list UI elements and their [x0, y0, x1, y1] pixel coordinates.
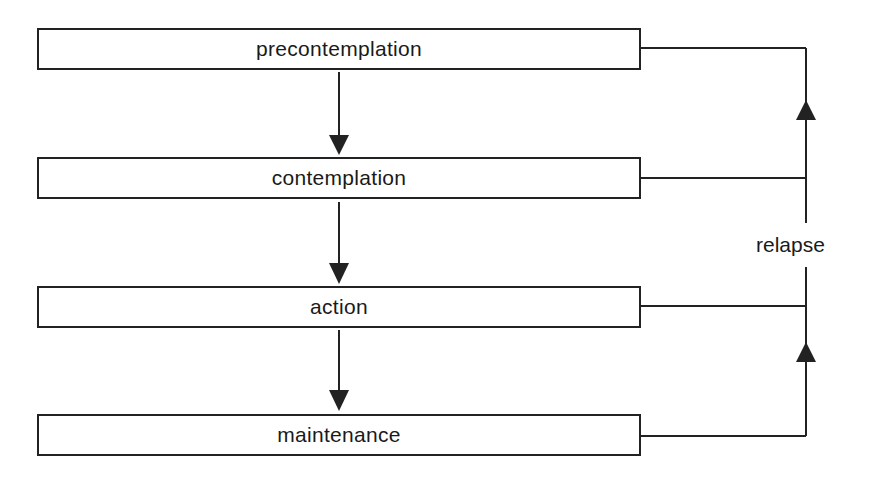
- stage-contemplation: contemplation: [37, 157, 641, 199]
- connector-lines: [0, 0, 876, 482]
- arrowhead-up-icon: [796, 342, 816, 362]
- stages-of-change-diagram: precontemplation contemplation action ma…: [0, 0, 876, 482]
- stage-label: action: [310, 295, 368, 319]
- relapse-label: relapse: [756, 233, 825, 257]
- stage-precontemplation: precontemplation: [37, 28, 641, 70]
- stage-label: precontemplation: [256, 37, 422, 61]
- stage-label: contemplation: [272, 166, 407, 190]
- stage-maintenance: maintenance: [37, 414, 641, 456]
- arrowhead-down-icon: [329, 263, 349, 284]
- stage-label: maintenance: [277, 423, 401, 447]
- arrowhead-up-icon: [796, 100, 816, 120]
- stage-action: action: [37, 286, 641, 328]
- arrowhead-down-icon: [329, 390, 349, 411]
- arrowhead-down-icon: [329, 135, 349, 155]
